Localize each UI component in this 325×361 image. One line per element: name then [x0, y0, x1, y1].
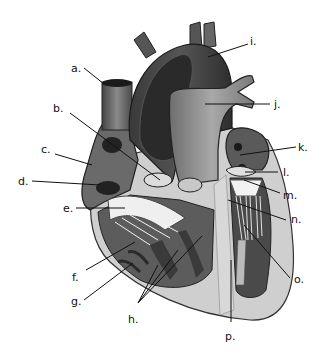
- leader-a: [84, 68, 104, 84]
- label-j: j.: [273, 98, 281, 111]
- papillary-muscle-left: [236, 240, 246, 285]
- label-h: h.: [128, 313, 138, 326]
- superior-vena-cava: [102, 82, 132, 130]
- label-p: p.: [225, 330, 235, 343]
- leader-g: [84, 263, 133, 300]
- label-f: f.: [72, 271, 79, 284]
- left-ventricle-valve-region: [230, 180, 262, 196]
- label-m: m.: [283, 189, 297, 202]
- superior-vena-cava-opening: [102, 79, 132, 87]
- aortic-branch-right: [204, 22, 216, 48]
- label-e: e.: [63, 202, 73, 215]
- label-n: n.: [291, 213, 301, 226]
- label-b: b.: [53, 102, 63, 115]
- left-atrium: [226, 128, 269, 170]
- label-d: d.: [18, 175, 28, 188]
- pulmonary-valve: [178, 178, 202, 192]
- label-g: g.: [71, 295, 81, 308]
- pulmonary-vein-opening-upper: [234, 143, 242, 151]
- label-l: l.: [283, 166, 290, 179]
- heart-diagram: a. b. c. d. e. f. g. h. i. j. k. l. m. n…: [0, 0, 325, 361]
- label-o: o.: [294, 273, 304, 286]
- label-c: c.: [41, 143, 51, 156]
- inferior-vena-cava-opening: [96, 181, 120, 195]
- label-a: a.: [71, 62, 81, 75]
- label-k: k.: [298, 141, 308, 154]
- leader-c: [55, 154, 92, 165]
- aortic-branch-left: [134, 32, 156, 58]
- aortic-valve: [144, 173, 172, 187]
- label-i: i.: [250, 35, 257, 48]
